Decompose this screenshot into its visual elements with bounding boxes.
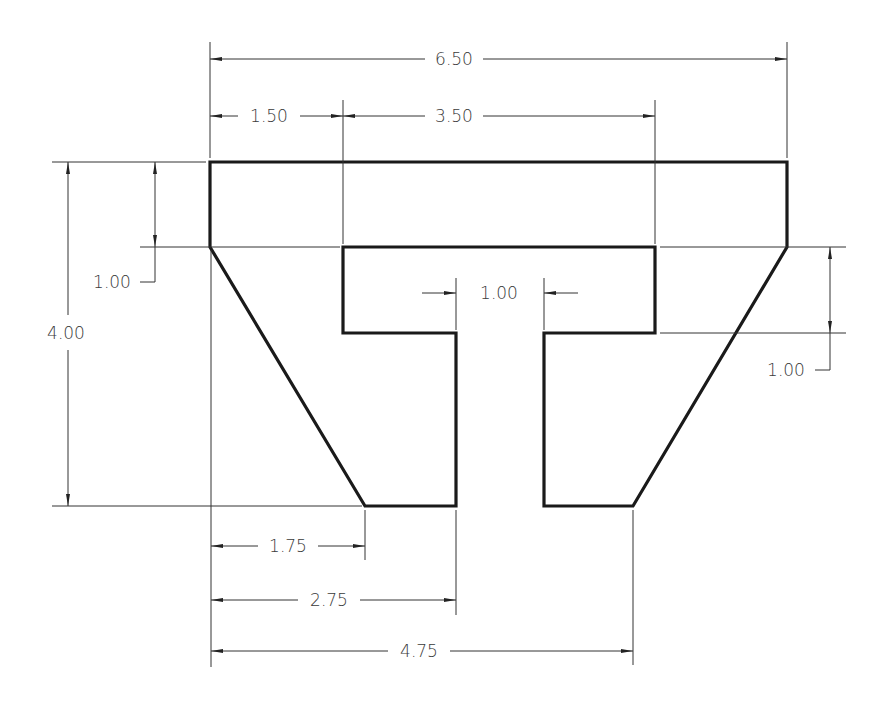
dim-left-foot-offset: 1.75 [269,536,307,556]
part-outline [210,162,787,506]
outer-profile [210,162,787,506]
dim-right-foot-offset: 4.75 [400,641,438,661]
dim-left-stem-offset: 2.75 [310,590,348,610]
dim-left-flange-width: 1.50 [250,106,288,126]
dim-overall-width: 6.50 [435,49,473,69]
extension-lines [52,42,846,667]
dim-inner-bar-thickness: 1.00 [767,360,805,380]
dim-overall-height: 4.00 [47,323,85,343]
dimension-lines [68,59,830,651]
dimension-labels: 6.50 1.50 3.50 4.00 1.00 1.00 1.00 1.75 … [47,49,805,661]
technical-drawing: 6.50 1.50 3.50 4.00 1.00 1.00 1.00 1.75 … [0,0,884,701]
dim-top-bar-thickness: 1.00 [93,272,131,292]
dim-stem-gap: 1.00 [480,283,518,303]
dim-inner-width: 3.50 [435,106,473,126]
drawing-canvas: 6.50 1.50 3.50 4.00 1.00 1.00 1.00 1.75 … [0,0,884,701]
